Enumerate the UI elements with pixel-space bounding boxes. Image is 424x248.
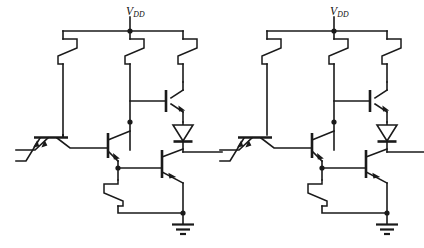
transistor-phase-splitter-2 [312, 131, 334, 171]
transistor-output-lower-1 [118, 149, 183, 213]
supply-label-right: VDD [330, 6, 348, 18]
supply-label-left-symbol: V [126, 5, 133, 17]
resistor-totem-upper-1 [178, 31, 197, 82]
transistor-totem-upper-2 [334, 82, 389, 122]
resistor-input-pullup-1 [58, 31, 77, 135]
diode-level-shift-2 [377, 122, 397, 152]
schematic-canvas [0, 0, 424, 248]
transistor-output-lower-2 [322, 149, 387, 213]
supply-rail-right [267, 17, 387, 34]
ground-symbol-2 [376, 210, 398, 234]
ground-symbol-1 [172, 210, 194, 234]
circuit-diagram-figure: VDD VDD [0, 0, 424, 248]
diode-level-shift-1 [173, 122, 193, 152]
transistor-totem-upper-1 [130, 82, 185, 122]
supply-label-right-symbol: V [330, 5, 337, 17]
supply-label-left: VDD [126, 6, 144, 18]
transistor-input-multiemitter-1 [16, 135, 108, 161]
resistor-input-pullup-2 [262, 31, 281, 135]
gate-1 [16, 17, 222, 234]
gate-2 [220, 17, 424, 234]
transistor-phase-splitter-1 [108, 131, 130, 171]
transistor-input-multiemitter-2 [220, 138, 312, 162]
supply-label-left-subscript: DD [133, 10, 144, 19]
supply-label-right-subscript: DD [337, 10, 348, 19]
resistor-totem-upper-2 [382, 31, 401, 82]
supply-rail-left [63, 17, 183, 34]
